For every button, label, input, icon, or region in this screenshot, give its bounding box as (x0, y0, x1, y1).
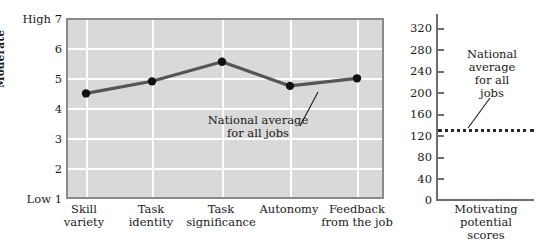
annotation-line-2: for all jobs (193, 127, 323, 140)
figure-canvas: Moderate High 7 6 5 4 3 2 Low 1 (0, 0, 536, 251)
y-tick-label-280: 280 (398, 44, 432, 56)
gridline-h-6 (68, 48, 382, 50)
y-tick-label-2: 2 (0, 163, 62, 175)
y-tick-label-6: 6 (0, 43, 62, 55)
x-tick-line-1: Autonomy (260, 203, 319, 216)
x-tick-skill-variety: Skill variety (64, 203, 104, 229)
national-average-reference-line (438, 129, 534, 132)
annotation-line-4: jobs (460, 87, 524, 100)
x-axis-line (436, 199, 534, 201)
y-tick-mark-40 (438, 178, 444, 180)
gridline-h-4 (68, 108, 382, 110)
y-tick-label-320: 320 (398, 22, 432, 34)
y-tick-mark-200 (438, 92, 444, 94)
job-characteristics-chart: Moderate High 7 6 5 4 3 2 Low 1 (0, 0, 390, 251)
y-tick-label-5: 5 (0, 73, 62, 85)
y-tick-mark-160 (438, 114, 444, 116)
annotation-national-average: National average for all jobs (460, 48, 524, 100)
gridline-v-autonomy (290, 20, 292, 197)
motivating-potential-scores-chart: 320 280 240 200 160 120 80 40 0 National… (398, 0, 536, 251)
x-tick-task-significance: Task significance (186, 203, 256, 229)
y-tick-mark-320 (438, 28, 444, 30)
y-tick-mark-0 (438, 199, 444, 201)
x-tick-line-2: from the job (321, 216, 393, 229)
plot-area (66, 18, 384, 199)
y-tick-label-120: 120 (398, 130, 432, 142)
x-tick-task-identity: Task identity (129, 203, 174, 229)
gridline-v-skill-variety (86, 20, 88, 197)
y-tick-label-40: 40 (398, 173, 432, 185)
x-tick-feedback: Feedback from the job (321, 203, 393, 229)
y-tick-label-0: 0 (398, 194, 432, 206)
y-tick-label-1: Low 1 (0, 193, 62, 205)
y-tick-label-80: 80 (398, 151, 432, 163)
y-tick-label-7: High 7 (0, 13, 62, 25)
y-axis-line (436, 14, 438, 201)
y-tick-mark-80 (438, 157, 444, 159)
x-tick-line-2: significance (186, 216, 256, 229)
y-tick-label-240: 240 (398, 65, 432, 77)
x-tick-line-2: variety (64, 216, 104, 229)
x-tick-line-2: identity (129, 216, 174, 229)
y-tick-mark-280 (438, 49, 444, 51)
y-tick-label-160: 160 (398, 108, 432, 120)
gridline-v-task-significance (222, 20, 224, 197)
x-axis-label-line-3: scores (438, 229, 534, 242)
y-tick-label-3: 3 (0, 133, 62, 145)
gridline-v-task-identity (152, 20, 154, 197)
y-tick-label-4: 4 (0, 103, 62, 115)
annotation-national-average: National average for all jobs (193, 114, 323, 140)
annotation-leader-line (468, 98, 490, 128)
gridline-h-5 (68, 78, 382, 80)
y-tick-label-200: 200 (398, 87, 432, 99)
gridline-v-feedback (357, 20, 359, 197)
y-tick-mark-240 (438, 71, 444, 73)
gridline-h-2 (68, 168, 382, 170)
y-tick-mark-120 (438, 135, 444, 137)
x-tick-autonomy: Autonomy (260, 203, 319, 216)
x-axis-label: Motivating potential scores (438, 203, 534, 242)
